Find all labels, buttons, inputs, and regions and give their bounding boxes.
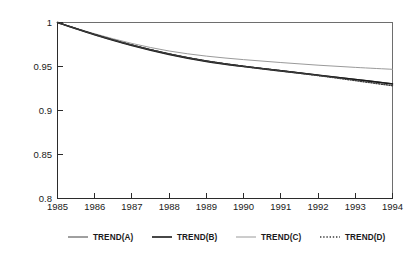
legend-item-trend-d[interactable]: TREND(D) xyxy=(320,233,386,242)
legend: TREND(A) TREND(B) TREND(C) TREND(D) xyxy=(68,233,386,242)
series-line-trend-c xyxy=(58,23,393,70)
legend-label: TREND(D) xyxy=(345,233,386,242)
y-tick-labels: 1 0.95 0.9 0.85 0.8 xyxy=(34,17,53,204)
legend-label: TREND(C) xyxy=(261,233,302,242)
series-line-trend-b xyxy=(58,23,393,84)
series-line-trend-a xyxy=(58,23,393,84)
x-tick-label: 1986 xyxy=(84,201,105,212)
legend-label: TREND(B) xyxy=(177,233,218,242)
x-tick-label: 1993 xyxy=(345,201,366,212)
line-chart: 1 0.95 0.9 0.85 0.8 1985 1986 1987 1988 xyxy=(0,0,413,255)
y-tick-label: 0.95 xyxy=(34,61,53,72)
chart-container: 1 0.95 0.9 0.85 0.8 1985 1986 1987 1988 xyxy=(0,0,413,255)
y-axis xyxy=(58,22,64,199)
series-group xyxy=(58,23,393,86)
y-tick-label: 0.85 xyxy=(34,149,53,160)
x-tick-label: 1990 xyxy=(233,201,254,212)
x-tick-label: 1994 xyxy=(382,201,403,212)
x-tick-label: 1989 xyxy=(196,201,217,212)
legend-item-trend-c[interactable]: TREND(C) xyxy=(236,233,302,242)
legend-item-trend-b[interactable]: TREND(B) xyxy=(152,233,218,242)
x-tick-labels: 1985 1986 1987 1988 1989 1990 1991 1992 … xyxy=(47,201,403,212)
plot-frame xyxy=(57,23,393,199)
x-tick-label: 1985 xyxy=(47,201,68,212)
legend-label: TREND(A) xyxy=(93,233,134,242)
x-tick-label: 1988 xyxy=(159,201,180,212)
y-tick-label: 0.9 xyxy=(39,105,52,116)
x-tick-label: 1992 xyxy=(308,201,329,212)
y-tick-label: 1 xyxy=(47,17,52,28)
x-tick-label: 1991 xyxy=(270,201,291,212)
x-axis xyxy=(57,193,393,199)
x-tick-label: 1987 xyxy=(121,201,142,212)
legend-item-trend-a[interactable]: TREND(A) xyxy=(68,233,134,242)
series-line-trend-d xyxy=(58,23,393,86)
